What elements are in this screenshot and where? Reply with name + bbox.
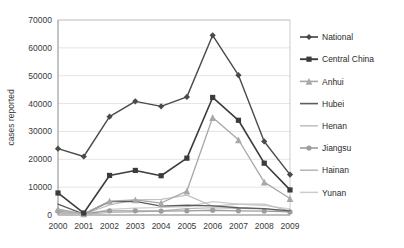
x-tick-label: 2007 bbox=[229, 221, 248, 231]
data-point-square bbox=[287, 187, 292, 192]
data-point-circle bbox=[133, 208, 138, 213]
y-tick-label: 30000 bbox=[28, 126, 52, 136]
y-tick-label: 10000 bbox=[28, 182, 52, 192]
chart-canvas: 010000200003000040000500006000070000 200… bbox=[0, 0, 404, 248]
legend-label: Jiangsu bbox=[322, 143, 352, 153]
legend-item-hainan[interactable]: Hainan bbox=[300, 165, 349, 175]
x-tick-label: 2008 bbox=[255, 221, 274, 231]
y-tick-label: 70000 bbox=[28, 15, 52, 25]
y-tick-label: 0 bbox=[47, 210, 52, 220]
legend-item-yunan[interactable]: Yunan bbox=[300, 188, 346, 198]
data-point-square bbox=[133, 168, 138, 173]
data-point-circle bbox=[107, 208, 112, 213]
x-tick-label: 2004 bbox=[152, 221, 171, 231]
data-point-square bbox=[55, 190, 60, 195]
legend: NationalCentral ChinaAnhuiHubeiHenanJian… bbox=[300, 32, 374, 197]
data-point-circle bbox=[236, 208, 241, 213]
x-tick-label: 2002 bbox=[100, 221, 119, 231]
data-point-circle bbox=[159, 209, 164, 214]
data-point-square bbox=[159, 173, 164, 178]
legend-label: Henan bbox=[322, 121, 347, 131]
x-tick-label: 2006 bbox=[203, 221, 222, 231]
legend-label: Hainan bbox=[322, 165, 349, 175]
data-point-square bbox=[210, 95, 215, 100]
data-point-circle bbox=[306, 145, 311, 150]
legend-item-jiangsu[interactable]: Jiangsu bbox=[300, 143, 352, 153]
legend-item-central-china[interactable]: Central China bbox=[300, 54, 374, 64]
data-point-square bbox=[262, 161, 267, 166]
x-tick-label: 2000 bbox=[49, 221, 68, 231]
data-point-diamond bbox=[306, 34, 312, 40]
y-axis-title: cases reported bbox=[6, 89, 16, 145]
y-tick-label: 40000 bbox=[28, 99, 52, 109]
data-point-square bbox=[81, 210, 86, 215]
y-tick-label: 50000 bbox=[28, 71, 52, 81]
data-point-square bbox=[107, 173, 112, 178]
legend-item-henan[interactable]: Henan bbox=[300, 121, 347, 131]
y-tick-label: 20000 bbox=[28, 154, 52, 164]
x-tick-label: 2001 bbox=[74, 221, 93, 231]
legend-label: Anhui bbox=[322, 77, 344, 87]
data-point-circle bbox=[210, 208, 215, 213]
legend-label: National bbox=[322, 32, 353, 42]
legend-item-hubei[interactable]: Hubei bbox=[300, 99, 344, 109]
legend-label: Hubei bbox=[322, 99, 344, 109]
x-tick-label: 2005 bbox=[177, 221, 196, 231]
y-tick-label: 60000 bbox=[28, 43, 52, 53]
legend-label: Yunan bbox=[322, 188, 346, 198]
x-tick-label: 2009 bbox=[281, 221, 300, 231]
legend-item-anhui[interactable]: Anhui bbox=[300, 77, 344, 87]
legend-item-national[interactable]: National bbox=[300, 32, 353, 42]
data-point-square bbox=[236, 118, 241, 123]
data-point-circle bbox=[184, 208, 189, 213]
data-point-square bbox=[306, 57, 311, 62]
line-chart: 010000200003000040000500006000070000 200… bbox=[0, 0, 404, 248]
x-tick-label: 2003 bbox=[126, 221, 145, 231]
data-point-square bbox=[184, 156, 189, 161]
x-axis-tick-labels: 2000200120022003200420052006200720082009 bbox=[49, 221, 300, 231]
y-axis-tick-labels: 010000200003000040000500006000070000 bbox=[28, 15, 52, 220]
legend-label: Central China bbox=[322, 54, 374, 64]
